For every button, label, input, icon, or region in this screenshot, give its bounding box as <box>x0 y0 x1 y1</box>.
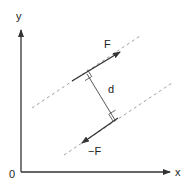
force-f-arrow <box>72 52 120 81</box>
couple-diagram: y x 0 F −F d <box>0 0 195 192</box>
origin-label: 0 <box>9 168 15 180</box>
force-neg-f-arrow <box>82 118 118 143</box>
force-f-label: F <box>104 38 111 50</box>
lower-line-of-action <box>64 83 172 155</box>
right-angle-marker-upper <box>85 70 92 81</box>
x-axis-label: x <box>175 166 181 178</box>
y-axis-label: y <box>16 10 22 22</box>
force-neg-f-label: −F <box>88 145 101 157</box>
distance-d-label: d <box>108 83 114 95</box>
